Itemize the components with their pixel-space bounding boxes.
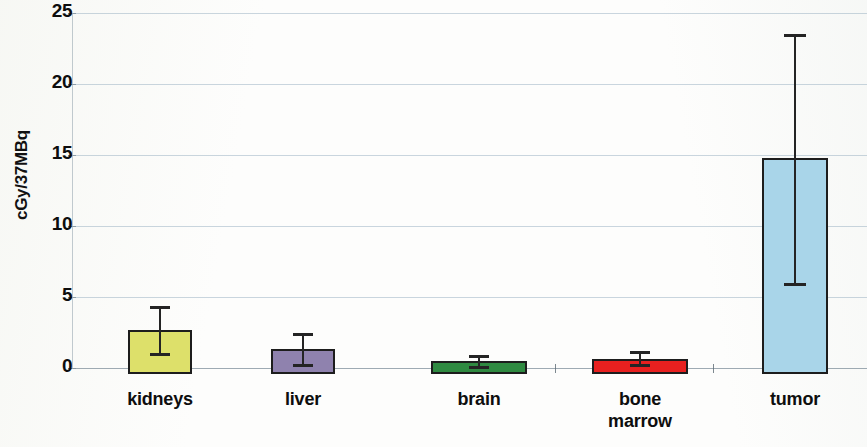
- x-axis-label-brain: brain: [399, 388, 559, 410]
- x-axis-labels: kidneysliverbrainbonemarrowtumor: [0, 0, 867, 447]
- x-axis-label-liver: liver: [223, 388, 383, 410]
- x-axis-separator-tick-1: [555, 364, 556, 373]
- x-axis-label-line: kidneys: [80, 388, 240, 410]
- x-axis-separator-tick-2: [713, 364, 714, 373]
- x-axis-label-kidneys: kidneys: [80, 388, 240, 410]
- x-axis-label-line: marrow: [560, 410, 720, 432]
- x-axis-label-tumor: tumor: [715, 388, 867, 410]
- x-axis-label-line: bone: [560, 388, 720, 410]
- x-axis-label-line: liver: [223, 388, 383, 410]
- x-axis-label-line: tumor: [715, 388, 867, 410]
- x-axis-label-bone-marrow: bonemarrow: [560, 388, 720, 432]
- bar-chart-figure: cGy/37MBq 0510152025 kidneysliverbrainbo…: [0, 0, 867, 447]
- x-axis-label-line: brain: [399, 388, 559, 410]
